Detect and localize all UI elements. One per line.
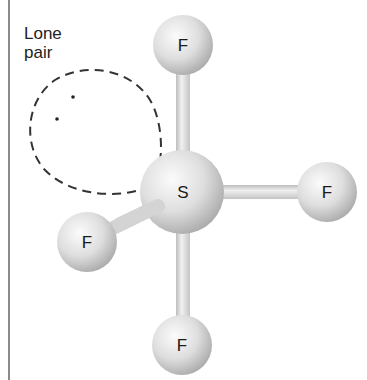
svg-text:F: F xyxy=(322,183,332,202)
atom-f-top: F xyxy=(153,15,213,75)
bond-bottom xyxy=(176,225,190,320)
sf4-molecule-diagram: F F F F S xyxy=(0,0,367,380)
bond-top xyxy=(176,70,190,160)
svg-text:F: F xyxy=(82,233,92,252)
lone-pair-electron xyxy=(71,95,75,99)
svg-text:S: S xyxy=(177,183,188,202)
svg-text:F: F xyxy=(177,336,187,355)
atom-f-right: F xyxy=(297,162,357,222)
atom-f-lower-left: F xyxy=(57,212,117,272)
lone-pair-electron xyxy=(55,117,59,121)
svg-text:F: F xyxy=(178,36,188,55)
lone-pair-lobe xyxy=(30,70,161,194)
bond-right xyxy=(220,185,305,199)
atom-f-bottom: F xyxy=(152,315,212,375)
